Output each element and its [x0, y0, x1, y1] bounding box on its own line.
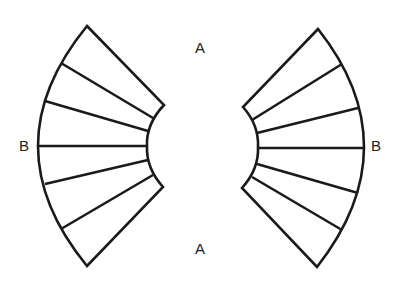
label-a-bottom: A	[195, 241, 205, 256]
right-fan-divider-2	[257, 108, 358, 133]
left-fan-divider-5	[61, 175, 153, 229]
right-fan-shape	[242, 29, 364, 267]
left-fan-divider-4	[45, 160, 148, 184]
right-fan-divider-1	[252, 64, 342, 120]
left-fan-shape	[38, 26, 164, 266]
label-b-left: B	[19, 138, 29, 153]
label-b-right: B	[371, 138, 381, 153]
label-a-top: A	[195, 40, 205, 55]
